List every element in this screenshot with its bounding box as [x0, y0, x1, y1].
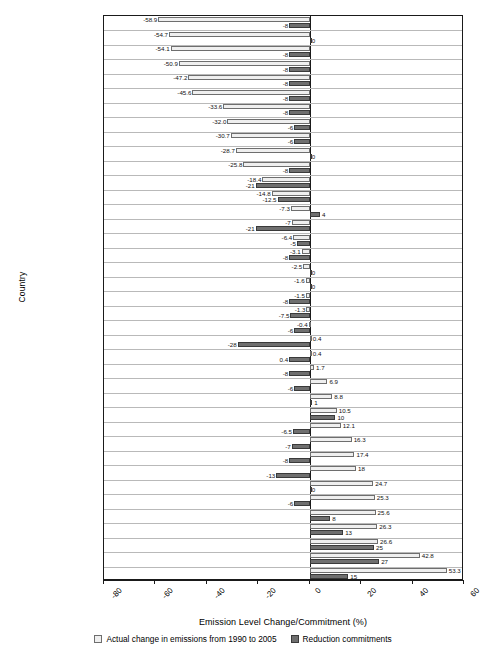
- legend-item-commitment: Reduction commitments: [291, 634, 392, 644]
- x-tick-label: -20: [264, 586, 279, 601]
- bar-reduction-commitment: [294, 386, 309, 391]
- bar-actual-change: [179, 61, 310, 66]
- bar-value-label: -8: [283, 299, 289, 305]
- bar-actual-change: [231, 133, 310, 138]
- bar-value-label: 0: [312, 284, 315, 290]
- bar-value-label: -8: [283, 371, 289, 377]
- bar-actual-change: [310, 408, 337, 413]
- bar-reduction-commitment: [294, 501, 309, 506]
- bar-actual-change: [236, 148, 310, 153]
- bar-actual-change: [171, 46, 310, 51]
- bar-reduction-commitment: [310, 559, 379, 564]
- bar-value-label: 24.7: [375, 481, 387, 487]
- bar-actual-change: [292, 220, 310, 225]
- row-separator: [104, 393, 462, 394]
- bar-value-label: 18: [358, 466, 365, 472]
- bar-value-label: 10: [337, 415, 344, 421]
- bar-value-label: -28.7: [221, 148, 235, 154]
- legend-swatch-actual: [94, 635, 102, 643]
- plot-area: Latvia-58.9-8Ukraine-54.70Lithuania-54.1…: [103, 15, 463, 580]
- bar-actual-change: [188, 75, 309, 80]
- bar-actual-change: [306, 293, 310, 298]
- row-separator: [104, 262, 462, 263]
- row-separator: [104, 378, 462, 379]
- bar-value-label: -21: [246, 226, 255, 232]
- bar-reduction-commitment: [310, 516, 331, 521]
- bar-value-label: -1.6: [294, 278, 305, 284]
- bar-value-label: 16.3: [354, 437, 366, 443]
- bar-actual-change: [309, 322, 311, 327]
- bar-reduction-commitment: [294, 125, 309, 130]
- x-tick: [154, 580, 155, 584]
- bar-actual-change: [243, 162, 309, 167]
- x-tick: [257, 580, 258, 584]
- bar-actual-change: [291, 206, 310, 211]
- bar-reduction-commitment: [289, 23, 310, 28]
- bar-value-label: -25.8: [228, 162, 242, 168]
- bar-value-label: -8: [283, 52, 289, 58]
- legend-label-commitment: Reduction commitments: [303, 634, 392, 644]
- bar-value-label: 1: [314, 400, 317, 406]
- bar-value-label: -6: [288, 125, 294, 131]
- bar-actual-change: [169, 32, 310, 37]
- row-separator: [104, 291, 462, 292]
- bar-actual-change: [272, 191, 310, 196]
- bar-reduction-commitment: [310, 574, 349, 579]
- bar-value-label: -5: [290, 241, 296, 247]
- row-separator: [104, 422, 462, 423]
- bar-value-label: 0: [312, 487, 315, 493]
- bar-value-label: -13: [266, 473, 275, 479]
- x-tick: [360, 580, 361, 584]
- chart-legend: Actual change in emissions from 1990 to …: [0, 634, 486, 644]
- bar-value-label: 1.7: [316, 365, 325, 371]
- bar-value-label: -6: [288, 501, 294, 507]
- bar-actual-change: [310, 495, 375, 500]
- bar-value-label: -8: [283, 168, 289, 174]
- bar-actual-change: [262, 177, 309, 182]
- row-separator: [104, 436, 462, 437]
- bar-value-label: -7: [285, 444, 291, 450]
- bar-actual-change: [310, 423, 341, 428]
- bar-value-label: 0.4: [313, 351, 322, 357]
- bar-value-label: -54.7: [154, 32, 168, 38]
- bar-reduction-commitment: [289, 96, 310, 101]
- bar-value-label: -8: [283, 81, 289, 87]
- bar-reduction-commitment: [294, 139, 309, 144]
- legend-swatch-commitment: [291, 635, 299, 643]
- bar-value-label: 0: [312, 154, 315, 160]
- bar-value-label: -6: [288, 139, 294, 145]
- bar-actual-change: [310, 452, 355, 457]
- bar-actual-change: [310, 510, 376, 515]
- bar-actual-change: [310, 437, 352, 442]
- bar-value-label: -8: [283, 110, 289, 116]
- row-separator: [104, 306, 462, 307]
- bar-actual-change: [310, 568, 447, 573]
- x-tick-label: 40: [417, 586, 430, 599]
- row-separator: [104, 538, 462, 539]
- bar-actual-change: [306, 307, 309, 312]
- bar-actual-change: [310, 379, 328, 384]
- bar-value-label: 27: [381, 559, 388, 565]
- bar-actual-change: [310, 539, 378, 544]
- row-separator: [104, 320, 462, 321]
- y-axis-title: Country: [17, 247, 27, 327]
- bar-reduction-commitment: [289, 255, 310, 260]
- bar-actual-change: [310, 524, 378, 529]
- bar-reduction-commitment: [289, 458, 310, 463]
- bar-value-label: -28: [228, 342, 237, 348]
- bar-value-label: 8.8: [334, 394, 343, 400]
- bar-value-label: 42.8: [422, 553, 434, 559]
- bar-value-label: -45.6: [177, 90, 191, 96]
- bar-actual-change: [310, 351, 312, 356]
- bar-reduction-commitment: [238, 342, 310, 347]
- bar-value-label: -8: [283, 458, 289, 464]
- bar-actual-change: [303, 264, 309, 269]
- bar-reduction-commitment: [276, 473, 309, 478]
- bar-value-label: -12.5: [262, 197, 276, 203]
- bar-actual-change: [310, 466, 356, 471]
- row-separator: [104, 509, 462, 510]
- x-axis: -80-60-40-200204060: [103, 580, 463, 581]
- bar-reduction-commitment: [310, 212, 320, 217]
- bar-value-label: -6: [288, 386, 294, 392]
- row-separator: [104, 465, 462, 466]
